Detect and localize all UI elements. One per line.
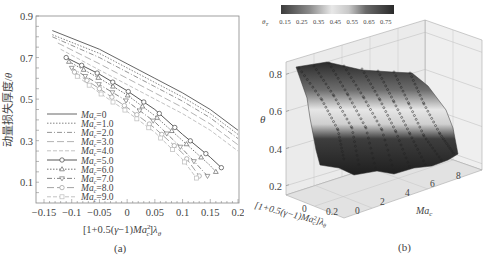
z-axis: 0.20.40.60.8θ bbox=[260, 69, 289, 191]
y-tick-label: 0.5 bbox=[20, 94, 33, 105]
colorbar: θT0.150.250.350.450.550.650.75 bbox=[262, 5, 394, 27]
x-axis-label: [1+0.5(γ−1)Ma2c]λθ bbox=[83, 223, 162, 238]
y-tick-label: 0.3 bbox=[20, 136, 33, 147]
mac-tick-label: 4 bbox=[405, 188, 410, 198]
x-tick-label: −0.05 bbox=[87, 207, 111, 218]
y-axis-label: 动量损失厚度/θ bbox=[1, 72, 14, 147]
z-tick-label: 0.8 bbox=[269, 69, 282, 80]
colorbar-label: θT bbox=[262, 18, 269, 27]
lambda-tick-label: 0.2 bbox=[326, 207, 338, 217]
z-tick-label: 0.4 bbox=[269, 144, 283, 155]
legend-label: Mac=9.0 bbox=[80, 192, 114, 203]
z-tick-label: 0.2 bbox=[269, 181, 282, 192]
x-tick-label: 0 bbox=[125, 207, 130, 218]
mac-tick-label: 6 bbox=[430, 179, 435, 189]
colorbar-tick: 0.25 bbox=[296, 18, 307, 25]
colorbar-tick: 0.15 bbox=[279, 18, 290, 25]
y-tick-label: 0.7 bbox=[20, 53, 33, 64]
z-axis-label: θ bbox=[260, 113, 266, 125]
surface-chart-svg: θT0.150.250.350.450.550.650.750.20.40.60… bbox=[244, 0, 488, 263]
legend-item: Mac=9.0 bbox=[47, 192, 114, 203]
x-tick-label: 0.1 bbox=[176, 207, 189, 218]
mac-tick-label: 8 bbox=[456, 171, 461, 181]
mac-axis-label: Mac bbox=[415, 205, 433, 218]
caption-a: (a) bbox=[114, 242, 126, 254]
y-tick-label: 0.1 bbox=[20, 177, 33, 188]
caption-b: (b) bbox=[398, 241, 411, 253]
panel-a-line-chart: −0.15−0.1−0.0500.050.10.150.20.10.30.50.… bbox=[0, 0, 244, 263]
legend: Mac=0Mac=1.0Mac=2.0Mac=3.0Mac=4.0Mac=5.0… bbox=[47, 110, 114, 204]
colorbar-gradient bbox=[281, 5, 394, 14]
colorbar-tick: 0.45 bbox=[330, 18, 341, 25]
x-tick-label: −0.1 bbox=[62, 207, 81, 218]
mac-tick-label: 2 bbox=[380, 197, 385, 207]
x-tick-label: 0.15 bbox=[201, 207, 219, 218]
panel-b-surface-chart: θT0.150.250.350.450.550.650.750.20.40.60… bbox=[244, 0, 488, 263]
z-tick-label: 0.6 bbox=[269, 106, 282, 117]
colorbar-tick: 0.35 bbox=[313, 18, 324, 25]
colorbar-tick: 0.55 bbox=[347, 18, 358, 25]
colorbar-tick: 0.75 bbox=[380, 18, 391, 25]
x-tick-label: 0.05 bbox=[146, 207, 164, 218]
mac-tick-label: 0 bbox=[355, 206, 360, 216]
y-tick-label: 0.9 bbox=[20, 11, 33, 22]
line-chart-svg: −0.15−0.1−0.0500.050.10.150.20.10.30.50.… bbox=[0, 0, 244, 263]
x-axis: −0.15−0.1−0.0500.050.10.150.2 bbox=[32, 199, 244, 218]
x-tick-label: 0.2 bbox=[231, 207, 244, 218]
x-tick-label: −0.15 bbox=[32, 207, 56, 218]
colorbar-tick: 0.65 bbox=[363, 18, 374, 25]
